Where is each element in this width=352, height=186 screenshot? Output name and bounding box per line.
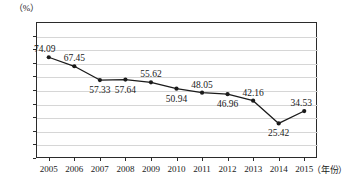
data-point-marker: [123, 78, 127, 82]
data-point-label: 42.16: [236, 88, 270, 98]
data-point-marker: [302, 109, 306, 113]
data-point-marker: [174, 87, 178, 91]
data-point-marker: [98, 78, 102, 82]
line-chart: （%） （年份） 0102030405060708090100 20052006…: [0, 0, 352, 186]
data-point-label: 55.62: [134, 69, 168, 79]
data-point-marker: [277, 121, 281, 125]
data-point-marker: [251, 99, 255, 103]
data-point-label: 46.96: [211, 99, 245, 109]
data-point-marker: [72, 64, 76, 68]
data-point-label: 57.64: [108, 85, 142, 95]
data-point-label: 67.45: [57, 53, 91, 63]
data-point-label: 48.05: [185, 80, 219, 90]
data-point-marker: [149, 80, 153, 84]
data-point-label: 50.94: [160, 94, 194, 104]
data-point-marker: [47, 55, 51, 59]
data-point-label: 25.42: [262, 128, 296, 138]
data-point-marker: [200, 91, 204, 95]
data-point-label: 34.53: [284, 98, 318, 108]
data-point-marker: [225, 92, 229, 96]
